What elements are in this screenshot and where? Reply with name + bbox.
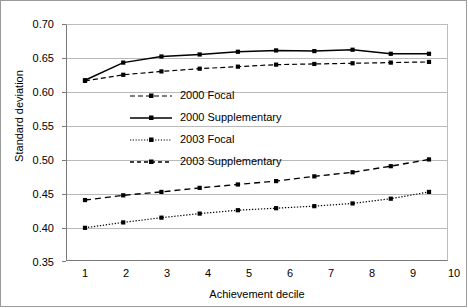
legend-label: 2003 Focal	[180, 133, 234, 145]
legend-item: 2003 Supplementary	[128, 151, 328, 173]
y-axis: 0.70 0.65 0.60 0.55 0.50 0.45 0.40 0.35	[0, 0, 62, 308]
legend-item: 2003 Focal	[128, 129, 328, 151]
y-tick-mark	[62, 58, 66, 59]
x-axis-title: Achievement decile	[66, 288, 448, 300]
x-tick-label: 2	[111, 268, 141, 279]
y-tick-mark	[62, 228, 66, 229]
legend-swatch-2003-supplementary	[128, 151, 174, 173]
y-tick-mark	[62, 24, 66, 25]
legend-item: 2000 Focal	[128, 85, 328, 107]
legend-label: 2000 Supplementary	[180, 111, 282, 123]
x-tick-label: 7	[316, 268, 346, 279]
y-tick-mark	[62, 126, 66, 127]
y-tick-label: 0.70	[14, 19, 54, 30]
legend-swatch-2000-focal	[128, 85, 174, 107]
x-tick-label: 5	[234, 268, 264, 279]
y-tick-mark	[62, 194, 66, 195]
legend: 2000 Focal 2000 Supplementary 2003 Focal…	[128, 85, 328, 173]
legend-swatch-2000-supplementary	[128, 107, 174, 129]
y-tick-mark	[62, 261, 66, 262]
y-tick-mark	[62, 160, 66, 161]
gridline	[67, 194, 447, 195]
x-tick-label: 8	[357, 268, 387, 279]
x-tick-label: 9	[398, 268, 428, 279]
chart-container: 0.70 0.65 0.60 0.55 0.50 0.45 0.40 0.35 …	[0, 0, 468, 308]
gridline	[67, 228, 447, 229]
gridline	[67, 58, 447, 59]
y-tick-label: 0.35	[14, 257, 54, 268]
x-tick-label: 4	[193, 268, 223, 279]
legend-swatch-2003-focal	[128, 129, 174, 151]
legend-label: 2000 Focal	[180, 89, 234, 101]
x-tick-label: 6	[275, 268, 305, 279]
x-tick-label: 1	[70, 268, 100, 279]
y-tick-label: 0.40	[14, 223, 54, 234]
y-axis-title: Standard deviation	[13, 31, 25, 201]
legend-label: 2003 Supplementary	[180, 155, 282, 167]
legend-item: 2000 Supplementary	[128, 107, 328, 129]
y-tick-mark	[62, 92, 66, 93]
x-tick-label: 3	[152, 268, 182, 279]
x-tick-label: 10	[439, 268, 468, 279]
